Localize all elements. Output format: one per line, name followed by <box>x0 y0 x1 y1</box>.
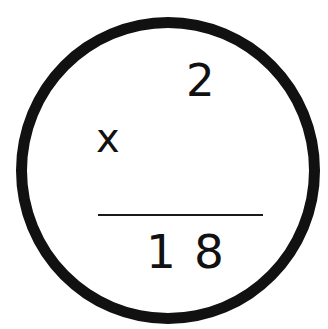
answer-line <box>98 214 263 216</box>
top-number: 2 <box>186 58 215 103</box>
multiplication-sign: x <box>96 118 120 158</box>
result-number: 18 <box>146 228 242 275</box>
